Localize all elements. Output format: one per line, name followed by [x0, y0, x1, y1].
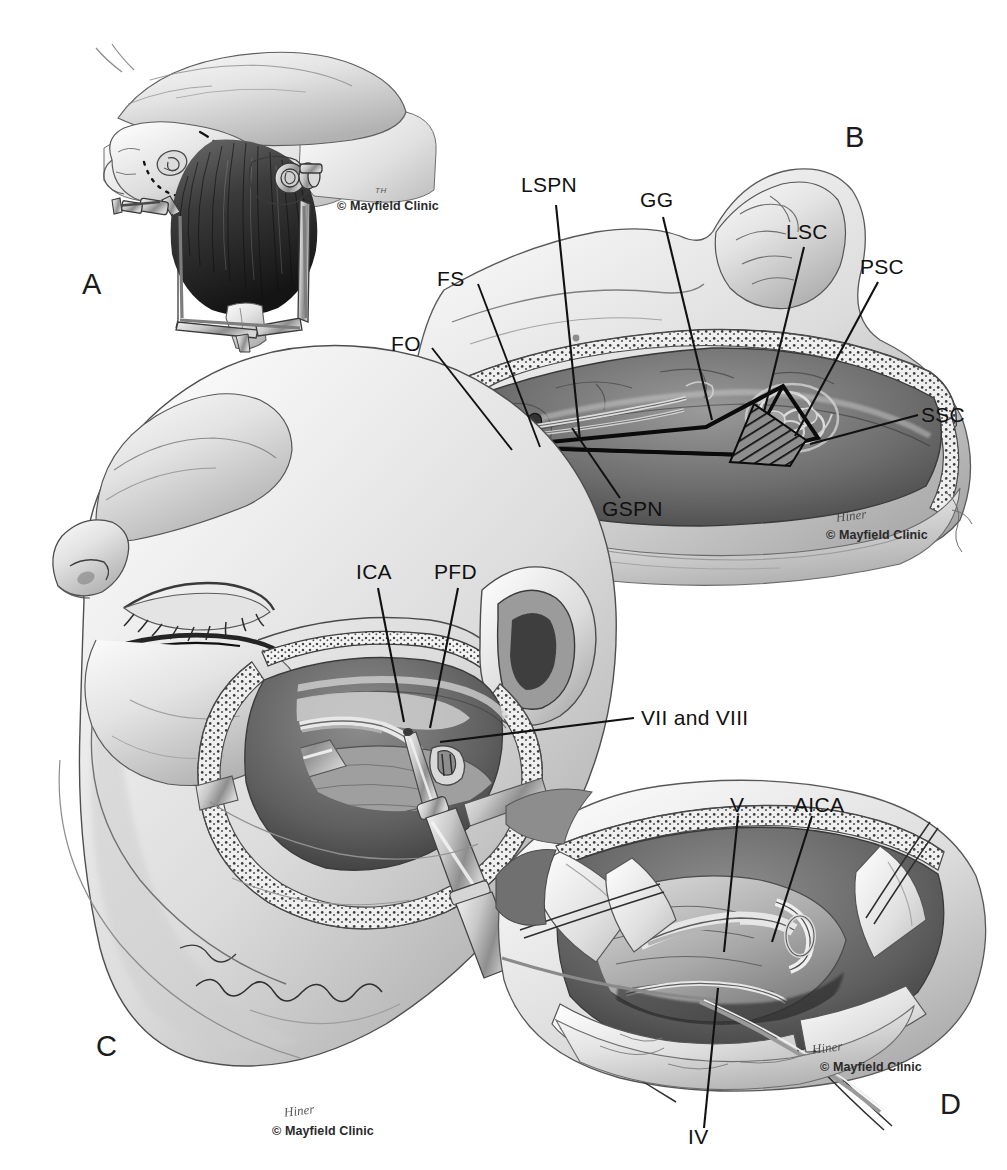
label-v: V [730, 794, 744, 815]
figure-canvas: A TH © Mayfield Clinic B LSPN GG LSC PSC… [0, 0, 1007, 1170]
credit-a: © Mayfield Clinic [337, 199, 439, 213]
label-iv: IV [688, 1126, 708, 1147]
artist-mark-a: TH [375, 186, 387, 195]
panel-letter-d: D [940, 1090, 961, 1119]
label-vii-and-viii: VII and VIII [641, 707, 749, 728]
credit-b: © Mayfield Clinic [826, 528, 928, 542]
label-lspn: LSPN [521, 174, 577, 195]
label-ssc: SSC [921, 404, 965, 425]
label-fo: FO [391, 333, 421, 354]
label-ica: ICA [356, 561, 392, 582]
label-gg: GG [640, 189, 673, 210]
label-aica: AICA [794, 794, 844, 815]
label-pfd: PFD [434, 561, 477, 582]
illustration-artwork [0, 0, 1007, 1170]
label-psc: PSC [860, 256, 904, 277]
panel-letter-c: C [96, 1032, 117, 1061]
credit-d: © Mayfield Clinic [820, 1060, 922, 1074]
label-gspn: GSPN [602, 498, 663, 519]
panel-letter-b: B [845, 123, 865, 152]
panel-letter-a: A [82, 270, 102, 299]
credit-c: © Mayfield Clinic [272, 1124, 374, 1138]
label-fs: FS [437, 268, 464, 289]
label-lsc: LSC [786, 221, 828, 242]
